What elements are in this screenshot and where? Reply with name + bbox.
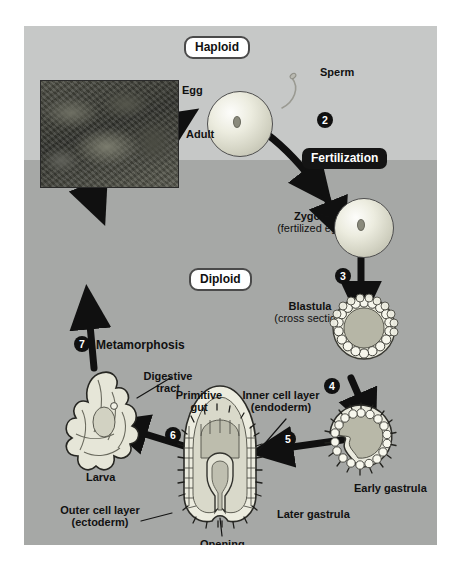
- label-metamorphosis: Metamorphosis: [96, 339, 185, 351]
- label-adult: Adult: [186, 128, 214, 140]
- label-digestive-tract-line2: tract: [137, 382, 199, 394]
- label-digestive-tract-line1: Digestive: [137, 370, 199, 382]
- adult-photo: [40, 80, 179, 188]
- label-larva: Larva: [86, 471, 115, 483]
- adult-photo-texture: [41, 81, 178, 187]
- life-cycle-figure: Haploid Sperm Egg 1 2 Meiosis Fertilizat…: [24, 26, 437, 545]
- step-badge-7: 7: [74, 336, 90, 352]
